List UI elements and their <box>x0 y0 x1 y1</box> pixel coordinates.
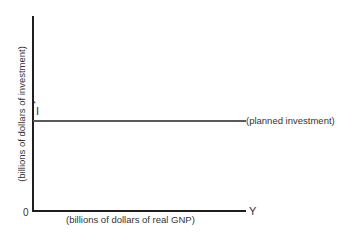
planned-investment-line <box>33 120 246 122</box>
origin-label: 0 <box>23 207 29 218</box>
x-axis-label: (billions of dollars of real GNP) <box>66 214 195 225</box>
istar-label: I* <box>36 104 42 117</box>
istar-superscript: * <box>33 100 36 107</box>
planned-investment-label: (planned investment) <box>246 115 335 126</box>
x-axis <box>32 210 246 212</box>
x-axis-end-label: Y <box>249 205 256 217</box>
istar-base: I <box>36 105 39 117</box>
y-axis-label: (billions of dollars of investment) <box>16 46 27 182</box>
y-axis <box>32 16 34 212</box>
